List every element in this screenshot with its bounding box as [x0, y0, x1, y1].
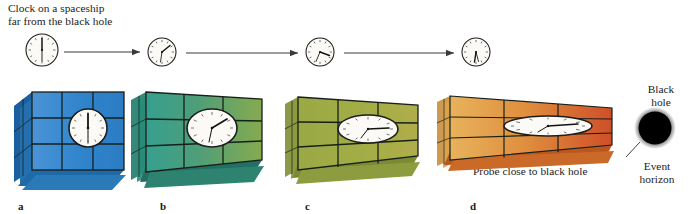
black-hole — [634, 107, 676, 149]
clock-far — [26, 34, 58, 66]
clock-mid-1 — [148, 38, 176, 66]
panel-a-cube — [14, 92, 126, 190]
panel-b-cube — [131, 92, 264, 188]
panel-d-clock — [504, 116, 592, 136]
time-dilation-figure: Clock on a spaceship far from the black … — [0, 0, 696, 214]
clock-near — [462, 38, 490, 66]
figure-graphics — [0, 0, 696, 214]
panel-a-clock — [69, 109, 107, 147]
panel-d-cube — [437, 96, 614, 171]
event-horizon-leader-line — [626, 142, 640, 157]
panel-c-clock — [338, 115, 398, 143]
panel-b-clock — [187, 109, 237, 147]
panel-c-cube — [285, 97, 420, 184]
clock-mid-2 — [306, 38, 334, 66]
